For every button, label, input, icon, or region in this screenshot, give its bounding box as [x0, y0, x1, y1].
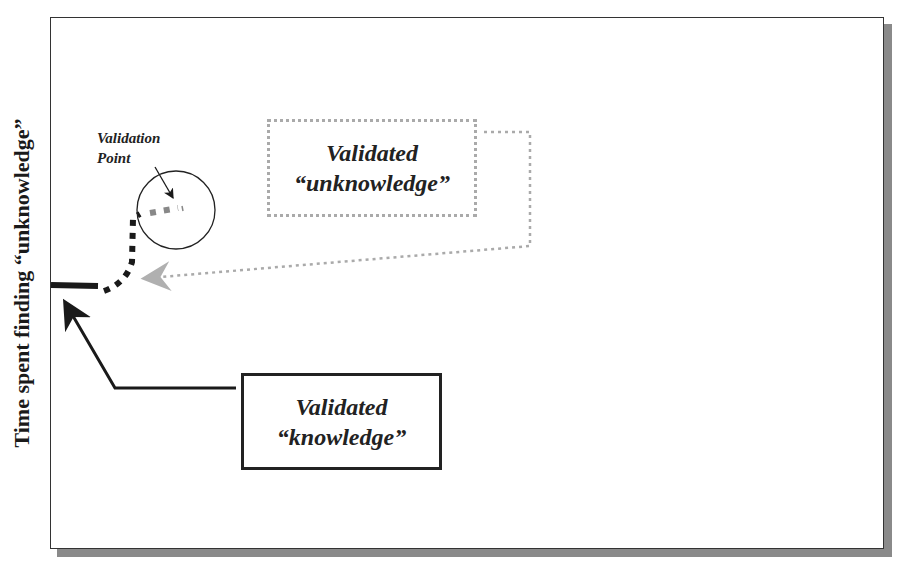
knowledge-box-line1: Validated [295, 392, 387, 422]
validation-point-label-line1: Validation [97, 128, 160, 148]
validation-point-label: Validation Point [97, 128, 160, 168]
unknowledge-box-line1: Validated [326, 138, 418, 168]
validation-circle [137, 171, 215, 249]
validation-path [150, 206, 183, 213]
knowledge-pointer-arrow [66, 304, 236, 388]
diagram-paths [0, 0, 903, 570]
validation-point-label-line2: Point [97, 148, 160, 168]
unknowledge-box-line2: “unknowledge” [294, 168, 450, 198]
knowledge-box-line2: “knowledge” [277, 422, 406, 452]
validated-unknowledge-box: Validated “unknowledge” [267, 119, 477, 217]
validated-knowledge-box: Validated “knowledge” [241, 373, 442, 470]
exploration-path [104, 214, 140, 291]
knowledge-line [51, 285, 98, 286]
